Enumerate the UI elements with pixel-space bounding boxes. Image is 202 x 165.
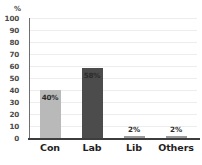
y-axis-tick-label: 50: [0, 74, 19, 83]
bar-slot: 58%: [82, 18, 103, 138]
x-axis-category-label: Con: [29, 142, 71, 153]
y-axis-tick-label: 70: [0, 50, 19, 59]
bar-value-label: 58%: [82, 71, 103, 80]
y-axis-tick-label: 80: [0, 38, 19, 47]
bar-chart: % 1009080706050403020100 40%58%2%2% ConL…: [0, 0, 202, 165]
y-axis-unit-label: %: [14, 5, 21, 13]
x-axis-category-label: Others: [155, 142, 197, 153]
y-axis-tick-label: 20: [0, 110, 19, 119]
bar-slot: 2%: [166, 18, 187, 138]
x-axis-category-label: Lab: [71, 142, 113, 153]
y-axis-tick-label: 10: [0, 122, 19, 131]
y-axis-tick-label: 60: [0, 62, 19, 71]
bar-slot: 40%: [40, 18, 61, 138]
x-axis-line: [28, 138, 200, 140]
x-axis-category-label: Lib: [113, 142, 155, 153]
y-axis-tick-label: 90: [0, 26, 19, 35]
bar-slot: 2%: [124, 18, 145, 138]
bar-value-label: 2%: [166, 125, 187, 134]
y-axis-tick-label: 100: [0, 14, 19, 23]
y-axis-tick-label: 30: [0, 98, 19, 107]
bar-series: 40%58%2%2%: [29, 18, 197, 138]
bar-value-label: 2%: [124, 125, 145, 134]
x-axis-category-labels: ConLabLibOthers: [29, 142, 197, 158]
bar-value-label: 40%: [40, 93, 61, 102]
y-axis-tick-label: 40: [0, 86, 19, 95]
y-axis-tick-label: 0: [0, 134, 19, 143]
plot-area: 1009080706050403020100 40%58%2%2%: [29, 18, 197, 138]
